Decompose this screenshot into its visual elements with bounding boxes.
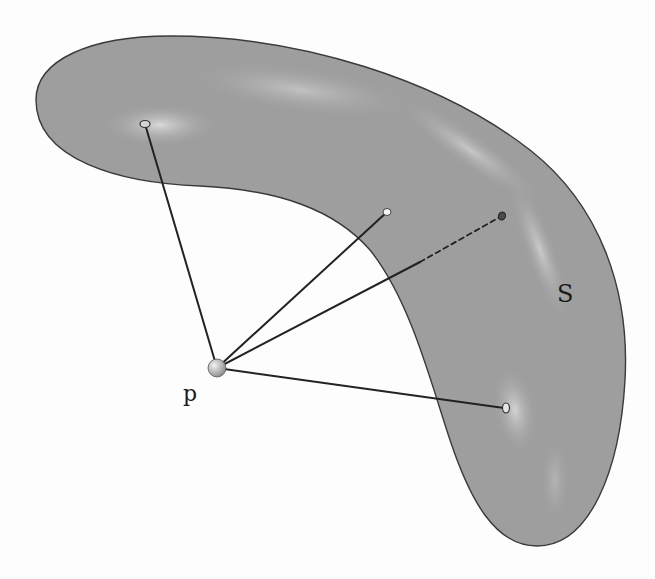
point-p-label: p bbox=[183, 381, 197, 406]
point-p-marker bbox=[208, 359, 226, 377]
point-q2-marker bbox=[383, 209, 391, 216]
point-q1-marker bbox=[140, 121, 150, 128]
surface-s-label: S bbox=[557, 280, 573, 308]
segment-p-q3-solid bbox=[217, 262, 420, 368]
diagram-canvas: p S bbox=[0, 0, 655, 579]
surface-s bbox=[36, 36, 626, 546]
point-q4-marker bbox=[503, 403, 510, 413]
segment-p-q2 bbox=[217, 212, 387, 368]
distance-diagram: p S bbox=[0, 0, 655, 579]
